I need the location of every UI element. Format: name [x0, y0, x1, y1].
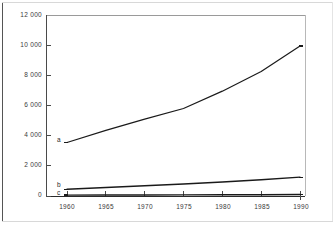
ytick-label-8000: 8 000: [8, 71, 42, 78]
axis-group: [46, 15, 305, 196]
ytick-label-2000: 2 000: [8, 161, 42, 168]
ytick-label-10000: 10 000: [8, 41, 42, 48]
xtick-label-1975: 1975: [170, 203, 198, 210]
series-line-c: [67, 195, 300, 196]
ytick-label-6000: 6 000: [8, 101, 42, 108]
xtick-label-1980: 1980: [209, 203, 237, 210]
ytick-label-12000: 12 000: [8, 11, 42, 18]
series-line-a: [67, 46, 300, 143]
xtick-label-1960: 1960: [53, 203, 81, 210]
series-label-c: c: [57, 189, 60, 196]
xtick-label-1965: 1965: [92, 203, 120, 210]
xtick-label-1985: 1985: [248, 203, 276, 210]
series-label-a: a: [57, 136, 61, 143]
tick-mark-group: [46, 45, 300, 200]
series-group: [64, 46, 303, 195]
xtick-label-1990: 1990: [287, 203, 315, 210]
line-chart-figure: 12 000 10 000 8 000 6 000 4 000 2 000 0 …: [0, 0, 335, 231]
ytick-label-0: 0: [8, 191, 42, 198]
series-line-b: [67, 177, 300, 189]
ytick-label-4000: 4 000: [8, 131, 42, 138]
xtick-label-1970: 1970: [131, 203, 159, 210]
series-label-b: b: [57, 181, 61, 188]
plot-area: [0, 0, 335, 231]
